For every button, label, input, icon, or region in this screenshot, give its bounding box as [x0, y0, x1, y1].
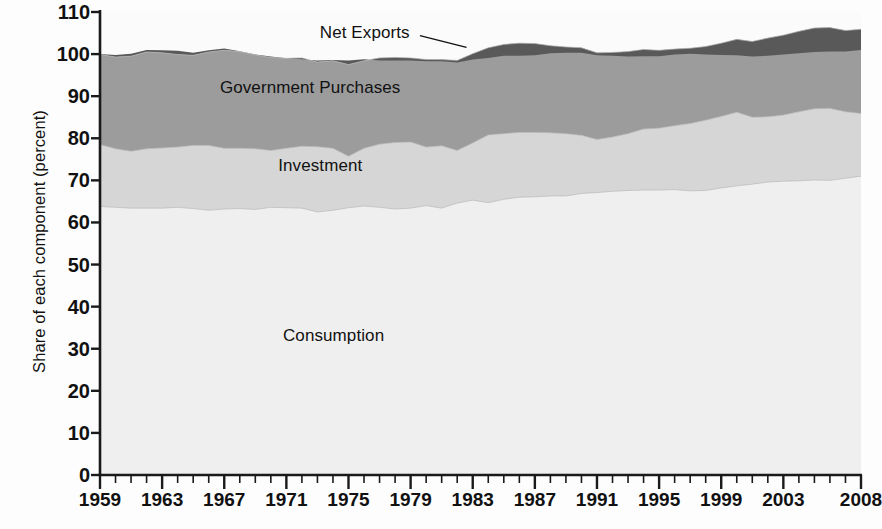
x-tick-label-1971: 1971	[265, 489, 307, 511]
x-tick-label-1979: 1979	[389, 489, 431, 511]
x-tick-label-1999: 1999	[700, 489, 742, 511]
x-axis-tick-labels: 1959196319671971197519791983198719911995…	[0, 489, 881, 521]
series-label-investment: Investment	[278, 156, 362, 176]
x-tick-label-1959: 1959	[79, 489, 121, 511]
x-tick-label-1995: 1995	[638, 489, 680, 511]
x-tick-label-2008: 2008	[840, 489, 882, 511]
x-tick-label-1983: 1983	[452, 489, 494, 511]
series-label-net-exports: Net Exports	[320, 23, 410, 43]
series-label-consumption: Consumption	[283, 326, 384, 346]
x-tick-label-1987: 1987	[514, 489, 556, 511]
x-tick-label-1963: 1963	[141, 489, 183, 511]
x-tick-label-1975: 1975	[327, 489, 369, 511]
x-tick-label-1967: 1967	[203, 489, 245, 511]
x-tick-label-2003: 2003	[762, 489, 804, 511]
x-tick-label-1991: 1991	[576, 489, 618, 511]
series-label-government-purchases: Government Purchases	[220, 78, 401, 98]
area-band-consumption	[100, 176, 861, 475]
